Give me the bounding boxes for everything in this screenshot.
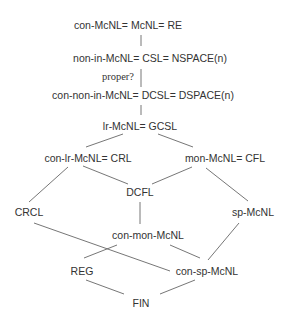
label-proper: proper? — [102, 71, 134, 82]
node-reg: REG — [71, 265, 94, 277]
edge-reg-fin — [86, 280, 124, 294]
edge-cfl-dcfl — [152, 167, 192, 184]
node-csl: non-in-McNL= CSL= NSPACE(n) — [73, 52, 227, 64]
edge-conmon-consp — [170, 245, 200, 258]
edge-sp-consp — [208, 223, 239, 260]
nodes: con-McNL= McNL= RE non-in-McNL= CSL= NSP… — [15, 19, 274, 309]
edge-gcsl-crl — [86, 134, 123, 147]
node-gcsl: lr-McNL= GCSL — [103, 120, 178, 132]
edge-crl-crcl — [29, 167, 68, 202]
node-crl: con-lr-McNL= CRL — [44, 152, 131, 164]
edge-conmon-reg — [84, 245, 117, 258]
node-fin: FIN — [133, 297, 150, 309]
node-cfl: mon-McNL= CFL — [185, 152, 265, 164]
edge-crl-dcfl — [83, 166, 128, 184]
node-conmon: con-mon-McNL — [112, 229, 184, 241]
node-dcfl: DCFL — [126, 186, 154, 198]
node-re: con-McNL= McNL= RE — [74, 19, 182, 31]
node-consp: con-sp-McNL — [176, 265, 239, 277]
edge-cfl-sp — [206, 168, 248, 201]
edges — [29, 35, 248, 294]
edge-consp-fin — [160, 280, 195, 294]
node-crcl: CRCL — [15, 206, 44, 218]
edge-gcsl-cfl — [158, 134, 193, 147]
node-sp: sp-McNL — [232, 206, 274, 218]
node-dcsl: con-non-in-McNL= DCSL= DSPACE(n) — [52, 89, 234, 101]
inclusion-diagram: con-McNL= McNL= RE non-in-McNL= CSL= NSP… — [0, 0, 287, 321]
